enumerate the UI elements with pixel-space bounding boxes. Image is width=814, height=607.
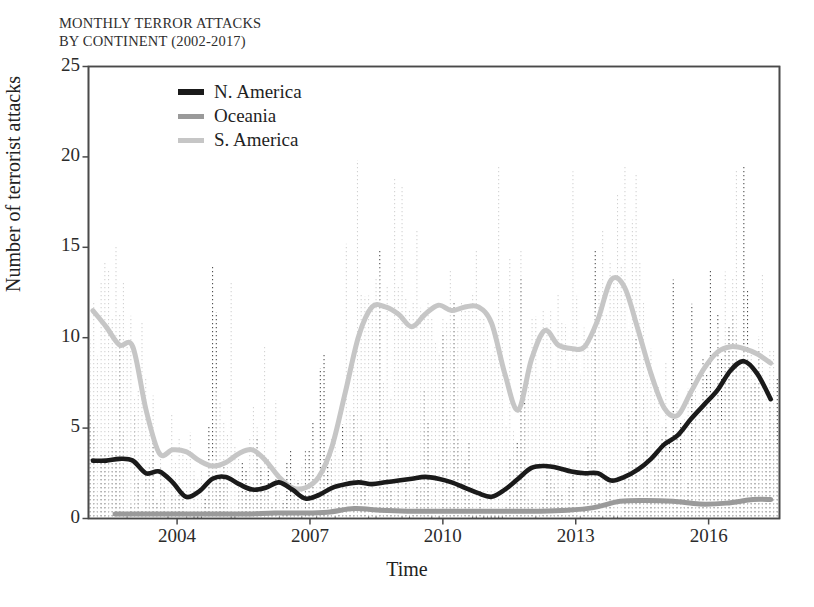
- trend-line-n-america: [93, 361, 771, 499]
- trend-line-oceania: [115, 499, 771, 514]
- raw-stems-n-america: [90, 165, 777, 519]
- chart-plot-area: [0, 0, 814, 607]
- plot-frame: [89, 67, 780, 519]
- raw-monthly-stems-group: [90, 160, 777, 519]
- raw-stems-s-america: [90, 160, 777, 519]
- chart-figure: MONTHLY TERROR ATTACKS BY CONTINENT (200…: [0, 0, 814, 607]
- plot-frame-overlay: [89, 67, 780, 519]
